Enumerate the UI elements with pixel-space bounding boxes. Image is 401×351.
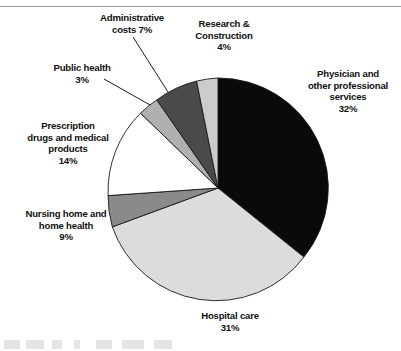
slice-label-prescription-text: Prescription drugs and medical products	[27, 120, 108, 154]
slice-label-physician-text: Physician and other professional service…	[308, 68, 388, 102]
slice-label-hospital-text: Hospital care	[201, 310, 259, 321]
slice-label-public-health-text: Public health	[53, 62, 110, 73]
slice-label-prescription: Prescription drugs and medical products1…	[14, 120, 122, 166]
slice-label-physician: Physician and other professional service…	[300, 68, 396, 114]
scan-artifact-bottom	[4, 340, 304, 349]
leader-line-administrative	[133, 37, 168, 92]
slice-label-public-health: Public health3%	[36, 62, 128, 85]
chart-page: Administrative costs 7% Research & Const…	[0, 0, 401, 351]
slice-label-nursing-text: Nursing home and home health	[25, 208, 106, 231]
slice-label-prescription-percent: 14%	[14, 155, 122, 167]
slice-label-research-text: Research & Construction	[195, 18, 252, 41]
slice-label-research: Research & Construction4%	[184, 18, 264, 53]
slice-label-administrative: Administrative costs 7%	[84, 12, 180, 35]
slice-label-research-percent: 4%	[184, 41, 264, 53]
slice-label-hospital-percent: 31%	[178, 322, 282, 334]
slice-label-hospital: Hospital care31%	[178, 310, 282, 333]
slice-label-nursing: Nursing home and home health9%	[12, 208, 120, 243]
slice-label-nursing-percent: 9%	[12, 231, 120, 243]
slice-label-physician-percent: 32%	[300, 103, 396, 115]
slice-label-public-health-percent: 3%	[36, 74, 128, 86]
